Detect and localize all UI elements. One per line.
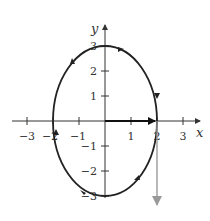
y-tick-label: −2: [81, 165, 97, 178]
y-axis-label: y: [90, 21, 99, 36]
x-axis-label: x: [196, 125, 204, 140]
y-tick-label: −1: [81, 140, 97, 153]
x-tick-label: −3: [19, 130, 35, 143]
y-tick-label: 1: [90, 90, 97, 103]
ellipse-diagram: −3 −2 −1 1 2 3 3 2 1 −1 −2 −3 x y: [0, 0, 210, 221]
x-tick-label: 3: [180, 130, 187, 143]
x-tick-label: 1: [128, 130, 135, 143]
y-tick-label: 2: [90, 65, 97, 78]
